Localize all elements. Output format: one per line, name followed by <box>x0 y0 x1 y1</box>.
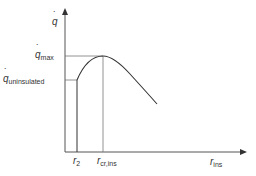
r2-label: r2 <box>73 156 80 167</box>
y-axis-arrow-icon <box>62 8 68 15</box>
r2-subscript: 2 <box>76 160 80 167</box>
r-cr-subscript: cr,ins <box>100 160 116 167</box>
q-max-label: qmax <box>35 50 54 61</box>
q-max-symbol: q <box>35 50 41 60</box>
y-axis-label: q <box>52 17 58 27</box>
q-uninsulated-label: quninsulated <box>3 74 44 85</box>
q-uninsulated-subscript: uninsulated <box>9 78 45 85</box>
x-axis-subscript: ins <box>213 161 222 168</box>
heat-rate-curve <box>77 56 157 104</box>
q-max-subscript: max <box>41 54 54 61</box>
x-axis-arrow-icon <box>240 149 247 155</box>
y-axis-symbol: q <box>52 17 58 27</box>
diagram-canvas <box>0 0 256 176</box>
x-axis-label: rins <box>210 157 222 168</box>
q-uninsulated-symbol: q <box>3 74 9 84</box>
r-cr-label: rcr,ins <box>97 156 117 167</box>
